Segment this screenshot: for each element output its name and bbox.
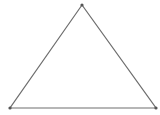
vertex-points — [8, 3, 157, 109]
vertex-bottom-left — [8, 106, 11, 109]
vertex-bottom-right — [154, 106, 157, 109]
triangle-diagram — [0, 0, 160, 115]
triangle-shape — [10, 5, 156, 108]
vertex-top — [80, 3, 83, 6]
